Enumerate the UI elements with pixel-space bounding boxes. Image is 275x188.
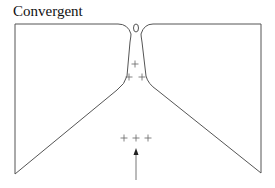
lower-plus-markers	[121, 135, 152, 142]
up-arrow-icon	[134, 148, 139, 180]
right-plate-outline	[141, 24, 261, 173]
convergent-diagram	[0, 0, 275, 188]
left-plate-outline	[15, 24, 131, 174]
oval-marker	[134, 24, 139, 32]
